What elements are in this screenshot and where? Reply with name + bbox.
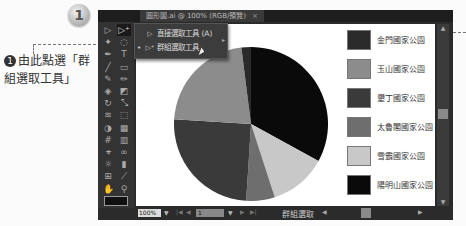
legend-label: 墾丁國家公園 <box>377 92 425 103</box>
instruction-callout: 1由此點選「群組選取工具」 <box>4 52 94 88</box>
scroll-right-icon[interactable]: ▶ <box>418 208 423 215</box>
scroll-left-icon[interactable]: ◀ <box>322 208 327 215</box>
fill-stroke-swatch[interactable] <box>104 196 128 206</box>
legend-swatch <box>347 146 371 166</box>
selection-tools-flyout: ▷直接選取工具 (A) • ▷⁺群組選取工具 ▸ <box>134 23 228 59</box>
close-tab-icon[interactable]: × <box>252 12 258 20</box>
legend-item[interactable]: 玉山國家公園 <box>347 59 435 79</box>
mesh-tool-icon[interactable]: # <box>101 134 115 146</box>
eyedropper-tool-icon[interactable]: ⌖ <box>101 146 115 158</box>
first-artboard-icon[interactable]: |◀ <box>176 208 183 215</box>
slice-tool-icon[interactable]: ⟋ <box>117 170 131 182</box>
legend-item[interactable]: 雪霸國家公園 <box>347 146 435 166</box>
horizontal-scroll-thumb[interactable] <box>361 208 371 218</box>
zoom-dropdown-icon[interactable]: ▼ <box>164 209 169 216</box>
legend-swatch <box>347 117 371 137</box>
callout-text: 由此點選「群組選取工具」 <box>4 54 90 86</box>
line-tool-icon[interactable]: ╱ <box>101 61 115 73</box>
eraser-tool-icon[interactable]: ◩ <box>117 85 131 97</box>
magic-wand-tool-icon[interactable]: ✦ <box>101 36 115 48</box>
last-artboard-icon[interactable]: ▶| <box>250 208 257 215</box>
legend-label: 陽明山國家公園 <box>377 179 433 190</box>
pen-tool-icon[interactable]: ✒ <box>101 48 115 60</box>
hand-tool-icon[interactable]: ✋ <box>101 183 115 195</box>
pie-slice[interactable] <box>174 48 251 124</box>
scroll-up-icon[interactable]: ▲ <box>437 24 449 32</box>
illustrator-window: 圓形圖.ai @ 100% (RGB/預覽)× ▷▷⁺✦◌✒T╱▭✎✏◈◩↻⤡≋… <box>98 10 453 220</box>
artboard-dropdown-icon[interactable]: ▼ <box>228 209 233 216</box>
legend-label: 玉山國家公園 <box>377 63 425 74</box>
tools-panel: ▷▷⁺✦◌✒T╱▭✎✏◈◩↻⤡≋⬚◑▦#▥⌖∞☼▮⊞⟋✋⚲ <box>98 22 134 208</box>
zoom-tool-icon[interactable]: ⚲ <box>117 183 131 195</box>
title-bar: 圓形圖.ai @ 100% (RGB/預覽)× <box>98 10 453 22</box>
status-bar: 100% ▼ |◀ ◀ 1 ▼ ▶ ▶| 群組選取 ◀ ▶ <box>136 206 453 220</box>
direct-selection-icon: ▷ <box>143 27 157 41</box>
legend-item[interactable]: 陽明山國家公園 <box>347 175 435 195</box>
pie-slice[interactable] <box>174 119 251 201</box>
selection-tool-icon[interactable]: ▷ <box>101 24 115 36</box>
legend-swatch <box>347 59 371 79</box>
scroll-down-icon[interactable]: ▼ <box>437 198 449 206</box>
group-selection-icon: ▷⁺ <box>143 41 157 55</box>
vertical-scroll-thumb[interactable] <box>438 109 448 119</box>
legend-swatch <box>347 30 371 50</box>
zoom-level-field[interactable]: 100% <box>138 209 161 217</box>
direct-selection-tool-icon[interactable]: ▷⁺ <box>117 24 131 36</box>
rotate-tool-icon[interactable]: ↻ <box>101 97 115 109</box>
blob-brush-tool-icon[interactable]: ◈ <box>101 85 115 97</box>
next-artboard-icon[interactable]: ▶ <box>240 208 245 215</box>
vertical-scrollbar[interactable]: ▲ ▼ <box>437 24 449 206</box>
selected-bullet-icon: • <box>137 41 141 55</box>
document-title: 圓形圖.ai @ 100% (RGB/預覽) <box>146 12 246 20</box>
legend-swatch <box>347 88 371 108</box>
callout-leader-vertical <box>33 44 34 54</box>
flyout-item-label: 群組選取工具 <box>157 43 199 52</box>
paintbrush-tool-icon[interactable]: ✎ <box>101 73 115 85</box>
legend-label: 太魯閣國家公園 <box>377 121 433 132</box>
gradient-tool-icon[interactable]: ▥ <box>117 134 131 146</box>
warp-tool-icon[interactable]: ≋ <box>101 109 115 121</box>
shape-builder-tool-icon[interactable]: ◑ <box>101 122 115 134</box>
legend-label: 金門國家公園 <box>377 34 425 45</box>
legend-item[interactable]: 墾丁國家公園 <box>347 88 435 108</box>
artboard-number-field[interactable]: 1 <box>196 209 224 217</box>
lasso-tool-icon[interactable]: ◌ <box>117 36 131 48</box>
current-tool-status: 群組選取 <box>282 208 314 219</box>
flyout-item-label: 直接選取工具 (A) <box>157 29 212 38</box>
flyout-tearoff-icon[interactable]: ▸ <box>222 36 225 43</box>
perspective-tool-icon[interactable]: ▦ <box>117 122 131 134</box>
prev-artboard-icon[interactable]: ◀ <box>186 208 191 215</box>
artboard-tool-icon[interactable]: ⊞ <box>101 170 115 182</box>
legend-swatch <box>347 175 371 195</box>
legend-item[interactable]: 太魯閣國家公園 <box>347 117 435 137</box>
pie-chart[interactable] <box>173 46 329 202</box>
graph-tool-icon[interactable]: ▮ <box>117 158 131 170</box>
document-tab[interactable]: 圓形圖.ai @ 100% (RGB/預覽)× <box>140 10 264 22</box>
blend-tool-icon[interactable]: ∞ <box>117 146 131 158</box>
pencil-tool-icon[interactable]: ✏ <box>117 73 131 85</box>
flyout-item-group-selection[interactable]: • ▷⁺群組選取工具 <box>135 41 227 55</box>
legend-label: 雪霸國家公園 <box>377 150 425 161</box>
type-tool-icon[interactable]: T <box>117 48 131 60</box>
rectangle-tool-icon[interactable]: ▭ <box>117 61 131 73</box>
symbol-sprayer-tool-icon[interactable]: ☼ <box>101 158 115 170</box>
legend-item[interactable]: 金門國家公園 <box>347 30 435 50</box>
scale-tool-icon[interactable]: ⤡ <box>117 97 131 109</box>
free-transform-tool-icon[interactable]: ⬚ <box>117 109 131 121</box>
callout-marker: 1 <box>4 55 16 67</box>
flyout-item-direct-selection[interactable]: ▷直接選取工具 (A) <box>135 27 227 41</box>
step-number-badge: 1 <box>68 4 90 26</box>
